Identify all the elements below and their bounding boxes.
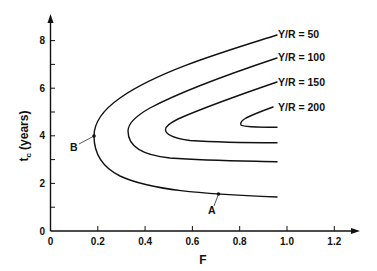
y-tick-label: 0: [39, 226, 45, 237]
yield-curves-chart: 0 0.2 0.4 0.6 0.8 1.0 1.2 0 2 4 6 8 F tc…: [0, 0, 377, 271]
y-tick-label: 6: [39, 83, 45, 94]
y-axis-title-sub: c: [24, 152, 33, 157]
y-axis-title: tc(years): [17, 111, 33, 162]
curve-label-yr-150: Y/R = 150: [278, 76, 325, 88]
curve-yr-100: [128, 58, 277, 162]
svg-text:tc(years): tc(years): [17, 111, 33, 162]
x-tick-labels: 0 0.2 0.4 0.6 0.8 1.0 1.2: [48, 236, 342, 247]
x-tick-label: 1.0: [280, 236, 294, 247]
y-tick-label: 8: [39, 35, 45, 46]
y-axis-title-unit: (years): [17, 111, 31, 150]
x-axis-arrow-icon: [351, 228, 360, 234]
curve-yr-200: [241, 107, 277, 127]
y-tick-label: 4: [39, 130, 45, 141]
y-tick-labels: 0 2 4 6 8: [39, 35, 45, 236]
x-tick-label: 0.4: [138, 236, 152, 247]
y-tick-label: 2: [39, 178, 45, 189]
x-tick-label: 0.8: [233, 236, 247, 247]
point-a-marker: A: [208, 192, 220, 216]
x-tick-label: 0.6: [185, 236, 199, 247]
curves: [94, 35, 277, 197]
curve-label-yr-50: Y/R = 50: [278, 28, 319, 40]
x-tick-label: 1.2: [327, 236, 341, 247]
curve-label-yr-100: Y/R = 100: [278, 51, 325, 63]
x-tick-label: 0: [48, 236, 54, 247]
point-a-label: A: [208, 204, 216, 216]
point-b-marker: B: [70, 134, 96, 153]
curve-label-yr-200: Y/R = 200: [278, 101, 325, 113]
x-ticks: [98, 226, 334, 231]
point-b-label: B: [70, 141, 78, 153]
x-tick-label: 0.2: [91, 236, 105, 247]
y-axis-arrow-icon: [48, 14, 54, 23]
x-axis-title: F: [199, 253, 206, 267]
